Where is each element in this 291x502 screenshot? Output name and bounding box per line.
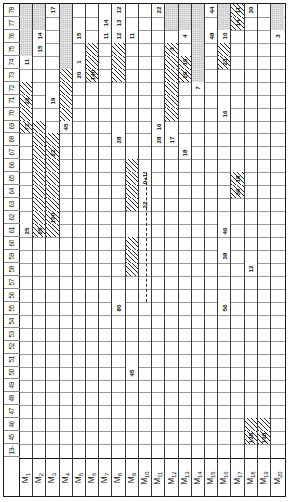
time-tick-label: 67 [9,149,15,156]
dashed-connector-line [146,172,147,301]
time-tick-78: 78 [4,4,20,17]
grid-column-M15 [205,4,218,458]
time-tick-label: 75 [9,46,15,53]
time-tick-71: 71 [4,95,20,108]
time-tick-label: 57 [9,279,15,286]
machine-axis-label: M11 [154,471,162,484]
time-tick-62: 62 [4,211,20,224]
time-tick-label: 76 [9,33,15,40]
time-tick-67: 67 [4,146,20,159]
grid-column-M4 [60,4,73,458]
time-tick-53: 53 [4,328,20,341]
machine-axis-label: M8 [114,473,122,483]
time-tick-57: 57 [4,276,20,289]
machine-axis-cell-M16: M16 [218,459,231,497]
time-tick-label: 61 [9,227,15,234]
machine-axis-cell-M5: M5 [73,459,86,497]
time-tick-label: 60 [9,240,15,247]
machine-axis-cell-M4: M4 [60,459,73,497]
time-tick-48: 48 [4,392,20,405]
time-tick-69: 69 [4,121,20,134]
machine-axis-cell-M10: M10 [139,459,152,497]
gantt-chart-root: 7877767574737271706968676665646362616059… [0,0,291,502]
time-tick-label: 46 [9,421,15,428]
time-tick-label: 50 [9,369,15,376]
time-tick-60: 60 [4,237,20,250]
time-axis-column: 7877767574737271706968676665646362616059… [4,4,20,496]
machine-axis-label: M16 [220,471,228,485]
time-tick-49: 49 [4,380,20,393]
time-tick-label: 72 [9,84,15,91]
machine-axis-label: M13 [181,471,189,485]
time-tick-label: 19- [9,446,15,455]
time-tick-77: 77 [4,17,20,30]
time-tick-65: 65 [4,172,20,185]
machine-axis-label: M15 [207,471,215,485]
grid-column-M11 [152,4,165,458]
chart-grid-frame: 7877767574737271706968676665646362616059… [3,3,286,497]
time-tick-label: 70 [9,110,15,117]
grid-column-M13 [179,4,192,458]
machine-axis-cell-M7: M7 [99,459,112,497]
time-tick-54: 54 [4,315,20,328]
time-tick-63: 63 [4,198,20,211]
time-tick-label: 52 [9,343,15,350]
grid-column-M8 [112,4,125,458]
grid-column-M20 [271,4,284,458]
time-tick-label: 74 [9,58,15,65]
time-tick-label: 47 [9,408,15,415]
machine-axis-cell-M3: M3 [46,459,59,497]
machine-axis-cell-M18: M18 [245,459,258,497]
machine-axis-label: M1 [22,473,30,483]
time-tick-52: 52 [4,341,20,354]
time-tick-76: 76 [4,30,20,43]
grid-column-M14 [192,4,205,458]
machine-axis-label: M2 [35,473,43,483]
time-tick-label: 71 [9,97,15,104]
machine-axis-cell-M13: M13 [179,459,192,497]
machine-axis-label: M4 [62,473,70,483]
time-tick-45: 45 [4,431,20,444]
machine-axis-cell-M6: M6 [86,459,99,497]
machine-axis-label: M19 [260,471,268,485]
machine-axis-cell-M14: M14 [192,459,205,497]
time-tick-label: 48 [9,395,15,402]
time-tick-label: 45 [9,434,15,441]
machine-axis-cell-M8: M8 [112,459,125,497]
time-tick-75: 75 [4,43,20,56]
machine-axis-cell-M1: M1 [20,459,33,497]
machine-axis-cell-M2: M2 [33,459,46,497]
time-tick-label: 56 [9,292,15,299]
machine-axis-cell-M15: M15 [205,459,218,497]
grid-column-M18 [245,4,258,458]
grid-column-M9 [126,4,139,458]
time-tick-label: 69 [9,123,15,130]
machine-axis-label: M7 [101,473,109,483]
time-tick-59: 59 [4,250,20,263]
time-tick-47: 47 [4,405,20,418]
machine-axis-row: M1M2M3M4M5M6M7M8M9M10M11M12M13M14M15M16M… [20,458,285,496]
machine-axis-label: M3 [48,473,56,483]
time-tick-label: 77 [9,20,15,27]
grid-column-M1 [20,4,33,458]
machine-axis-cell-M17: M17 [231,459,244,497]
time-tick-58: 58 [4,263,20,276]
grid-column-M7 [99,4,112,458]
time-tick-label: 51 [9,356,15,363]
time-tick-label: 63 [9,201,15,208]
time-tick-label: 54 [9,317,15,324]
time-tick-61: 61 [4,224,20,237]
time-tick-label: 58 [9,266,15,273]
time-tick-label: 64 [9,188,15,195]
time-tick-56: 56 [4,289,20,302]
time-tick-label: 65 [9,175,15,182]
time-tick-19: 19- [4,444,20,457]
time-tick-label: 78 [9,7,15,14]
time-tick-74: 74 [4,56,20,69]
machine-axis-label: M18 [247,471,255,485]
time-tick-50: 50 [4,367,20,380]
time-tick-label: 66 [9,162,15,169]
time-tick-72: 72 [4,82,20,95]
time-tick-68: 68 [4,133,20,146]
machine-axis-cell-M9: M9 [126,459,139,497]
